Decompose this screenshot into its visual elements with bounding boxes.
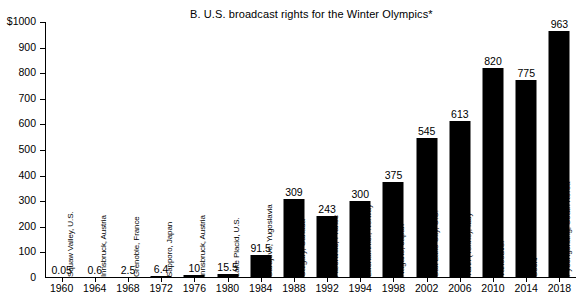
x-axis-tick-mark: [393, 278, 394, 282]
bar-group: 243Albertville, France: [311, 22, 344, 278]
bar-city-label: Lillehammer, Norway: [364, 204, 373, 277]
bar-city-label: Innsbruck, Austria: [99, 215, 108, 277]
x-axis-tick-mark: [62, 278, 63, 282]
bar-group: 375Nagano, Japan: [377, 22, 410, 278]
x-axis-tick-label: 2018: [548, 282, 571, 294]
bar-city-label: Squaw Valley, U.S.: [66, 212, 75, 278]
bar-value-label: 375: [385, 169, 403, 181]
bar-city-label: Grenoble, France: [132, 216, 141, 277]
y-axis-tick-label: 600: [18, 117, 36, 129]
x-axis-tick-label: 2014: [515, 282, 538, 294]
bar-city-label: Vancouver: [497, 240, 506, 277]
x-axis-tick-label: 1984: [249, 282, 272, 294]
bar-city-label: Innsbruck, Austria: [198, 215, 207, 277]
x-axis-tick-mark: [526, 278, 527, 282]
x-axis-tick-label: 1964: [83, 282, 106, 294]
x-axis-tick-mark: [194, 278, 195, 282]
bar-city-label: Calgary, Canada: [298, 219, 307, 277]
bar-group: 820Vancouver: [476, 22, 509, 278]
x-axis-tick-mark: [427, 278, 428, 282]
bar-group: 309Calgary, Canada: [277, 22, 310, 278]
winter-olympics-broadcast-rights-chart: B. U.S. broadcast rights for the Winter …: [0, 0, 579, 305]
y-axis-tick-label: $1000: [7, 15, 36, 27]
x-axis-tick-label: 1972: [149, 282, 172, 294]
bar-city-label: Pyeongchang, South Korea: [563, 182, 572, 277]
bar-value-label: 309: [285, 186, 303, 198]
y-axis-tick-label: 200: [18, 220, 36, 232]
x-axis-tick-mark: [327, 278, 328, 282]
bar-city-label: Nagano, Japan: [397, 224, 406, 277]
x-axis: 1960196419681972197619801984198819921994…: [45, 278, 576, 302]
x-axis-tick-label: 1998: [382, 282, 405, 294]
bar-city-label: Sochi: [530, 257, 539, 277]
bar-group: 545Salt Lake City, U.S.: [410, 22, 443, 278]
x-axis-tick-mark: [228, 278, 229, 282]
y-axis-tick-label: 900: [18, 41, 36, 53]
bar-group: 6.4Sapporo, Japan: [145, 22, 178, 278]
x-axis-tick-label: 1968: [116, 282, 139, 294]
bar-group: 0.05Squaw Valley, U.S.: [45, 22, 78, 278]
x-axis-tick-label: 1992: [315, 282, 338, 294]
bar-group: 300Lillehammer, Norway: [344, 22, 377, 278]
x-axis-tick-mark: [294, 278, 295, 282]
y-axis-tick-label: 100: [18, 245, 36, 257]
bar-value-label: 775: [517, 67, 535, 79]
chart-title: B. U.S. broadcast rights for the Winter …: [190, 8, 433, 20]
bar-value-label: 820: [484, 55, 502, 67]
bar-value-label: 613: [451, 108, 469, 120]
x-axis-tick-label: 2002: [415, 282, 438, 294]
x-axis-tick-label: 1960: [50, 282, 73, 294]
bar-group: 963Pyeongchang, South Korea: [543, 22, 576, 278]
y-axis-tick-label: 400: [18, 169, 36, 181]
bar-city-label: Salt Lake City, U.S.: [431, 210, 440, 277]
bars-layer: 0.05Squaw Valley, U.S.0.6Innsbruck, Aust…: [45, 22, 576, 278]
x-axis-tick-mark: [161, 278, 162, 282]
y-axis-tick-label: 700: [18, 92, 36, 104]
bar-value-label: 243: [318, 203, 336, 215]
bar-group: 91.5Sarajevo, Yugoslavia: [244, 22, 277, 278]
bar: [516, 80, 537, 278]
bar-group: 775Sochi: [510, 22, 543, 278]
x-axis-tick-mark: [95, 278, 96, 282]
bar-city-label: Turin (Torino), Italy: [464, 213, 473, 277]
x-axis-tick-mark: [460, 278, 461, 282]
bar-city-label: Sarajevo, Yugoslavia: [265, 204, 274, 277]
x-axis-tick-label: 1976: [183, 282, 206, 294]
bar-city-label: Albertville, France: [331, 215, 340, 277]
y-axis-tick-label: 800: [18, 66, 36, 78]
x-axis-tick-label: 2010: [481, 282, 504, 294]
x-axis-tick-mark: [493, 278, 494, 282]
bar-group: 15.5Lake Placid, U.S.: [211, 22, 244, 278]
bar-city-label: Lake Placid, U.S.: [232, 217, 241, 277]
x-axis-tick-mark: [559, 278, 560, 282]
x-axis-tick-label: 1994: [349, 282, 372, 294]
bar-group: 2.5Grenoble, France: [111, 22, 144, 278]
bar-group: 0.6Innsbruck, Austria: [78, 22, 111, 278]
bar-group: 613Turin (Torino), Italy: [443, 22, 476, 278]
x-axis-tick-mark: [261, 278, 262, 282]
bar-value-label: 300: [352, 188, 370, 200]
bar-value-label: 963: [551, 18, 569, 30]
y-axis-tick-label: 300: [18, 194, 36, 206]
y-axis-tick-label: 0: [30, 271, 36, 283]
x-axis-tick-label: 2006: [448, 282, 471, 294]
bar-value-label: 545: [418, 125, 436, 137]
y-axis-tick-label: 500: [18, 143, 36, 155]
x-axis-tick-label: 1980: [216, 282, 239, 294]
bar-group: 10Innsbruck, Austria: [178, 22, 211, 278]
x-axis-tick-mark: [128, 278, 129, 282]
x-axis-tick-label: 1988: [282, 282, 305, 294]
bar-city-label: Sapporo, Japan: [165, 222, 174, 277]
x-axis-tick-mark: [360, 278, 361, 282]
